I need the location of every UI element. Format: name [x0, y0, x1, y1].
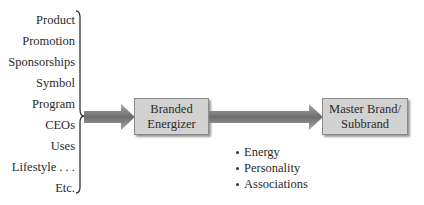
right-brace-icon — [74, 9, 86, 195]
source-item: Program — [32, 97, 75, 111]
source-item: CEOs — [45, 118, 75, 132]
source-item: Sponsorships — [8, 55, 75, 69]
source-item: Product — [36, 13, 75, 27]
source-item: Symbol — [36, 76, 75, 90]
box-label-line: Energizer — [147, 117, 195, 132]
box-label-line: Branded — [147, 102, 195, 117]
box-label-line: Master Brand/ — [329, 102, 401, 117]
source-item: Lifestyle . . . — [12, 160, 75, 174]
benefit-item: Associations — [236, 177, 308, 191]
bullet-icon — [236, 183, 239, 186]
branded-energizer-box: Branded Energizer — [134, 98, 209, 135]
benefit-item: Personality — [236, 161, 300, 175]
source-item: Uses — [51, 139, 75, 153]
bullet-icon — [236, 167, 239, 170]
bullet-icon — [236, 151, 239, 154]
master-brand-box: Master Brand/ Subbrand — [322, 98, 408, 135]
benefit-item: Energy — [236, 145, 280, 159]
source-item: Etc. — [55, 181, 75, 195]
arrow-right-icon — [209, 104, 325, 130]
source-item: Promotion — [22, 34, 75, 48]
arrow-right-icon — [84, 104, 136, 130]
box-label-line: Subbrand — [329, 117, 401, 132]
